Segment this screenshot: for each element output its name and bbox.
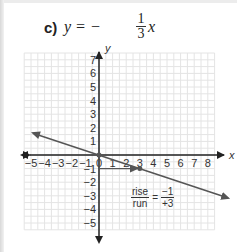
y-tick-label: 1: [90, 135, 96, 147]
rise-label: rise: [131, 186, 149, 198]
x-tick-label: −3: [52, 157, 65, 169]
x-tick-label: 5: [164, 157, 170, 169]
y-tick-label: 4: [90, 95, 96, 107]
y-tick-label: −5: [83, 217, 96, 229]
y-tick-label: 6: [90, 67, 96, 79]
x-axis-label: x: [228, 149, 235, 161]
x-tick-label: −4: [38, 157, 51, 169]
rise-over-run-annotation: rise run = −1 +3: [131, 186, 174, 209]
y-tick-label: −2: [83, 176, 96, 188]
y-tick-label: 2: [90, 122, 96, 134]
y-tick-label: 5: [90, 81, 96, 93]
x-tick-label: 4: [150, 157, 156, 169]
y-tick-label: −4: [83, 203, 96, 215]
x-tick-label: −2: [66, 157, 79, 169]
y-tick-label: 7: [90, 54, 96, 66]
rise-value: −1: [161, 186, 174, 198]
x-tick-label: 7: [191, 157, 197, 169]
x-tick-label: 8: [205, 157, 211, 169]
x-tick-label: 6: [178, 157, 184, 169]
y-tick-label: 3: [90, 108, 96, 120]
x-tick-label: −5: [25, 157, 38, 169]
coordinate-plane: xy −5−4−3−2−10123456787654321−1−2−3−4−5: [0, 0, 237, 252]
rise-run-fraction: rise run: [131, 186, 149, 209]
run-label: run: [132, 198, 148, 209]
y-tick-label: −1: [83, 163, 96, 175]
grid: [24, 53, 214, 230]
y-axis-label: y: [104, 42, 112, 54]
plot-point: [97, 153, 102, 158]
rise-run-values: −1 +3: [161, 186, 174, 209]
axes: xy: [20, 42, 235, 244]
plot-point: [137, 166, 142, 171]
y-tick-label: −3: [83, 190, 96, 202]
equals-sign: =: [152, 192, 158, 203]
run-value: +3: [161, 198, 174, 209]
